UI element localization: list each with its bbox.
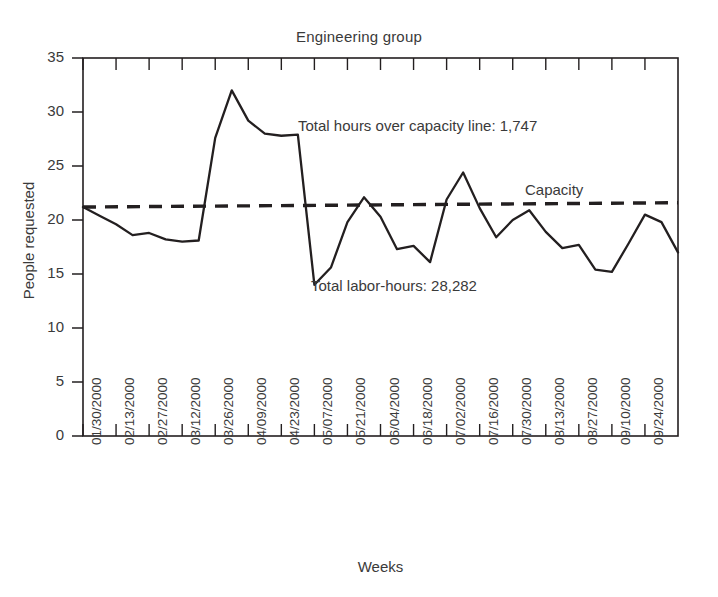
x-tick-label: 05/07/2000 [320, 377, 335, 445]
x-tick-label: 09/10/2000 [618, 377, 633, 445]
y-tick-label: 20 [24, 210, 64, 227]
annotation-hours-over-capacity: Total hours over capacity line: 1,747 [298, 117, 537, 134]
x-tick-label: 07/02/2000 [453, 377, 468, 445]
x-tick-label: 09/24/2000 [651, 377, 666, 445]
x-tick-label: 04/09/2000 [254, 377, 269, 445]
x-tick-label: 08/27/2000 [585, 377, 600, 445]
y-tick-label: 35 [24, 48, 64, 65]
x-tick-label: 02/13/2000 [122, 377, 137, 445]
x-axis-ticks-top [83, 58, 645, 70]
y-tick-label: 25 [24, 156, 64, 173]
y-tick-label: 30 [24, 102, 64, 119]
x-tick-label: 08/13/2000 [552, 377, 567, 445]
chart-figure: Engineering group People requested Weeks… [0, 0, 718, 597]
x-tick-label: 05/21/2000 [353, 377, 368, 445]
y-tick-label: 0 [24, 426, 64, 443]
x-tick-label: 01/30/2000 [89, 377, 104, 445]
capacity-reference-line [83, 203, 678, 207]
plot-area [0, 0, 718, 597]
x-tick-label: 06/04/2000 [387, 377, 402, 445]
x-tick-label: 02/27/2000 [155, 377, 170, 445]
x-tick-label: 06/18/2000 [420, 377, 435, 445]
x-tick-label: 03/26/2000 [221, 377, 236, 445]
y-tick-label: 5 [24, 372, 64, 389]
x-tick-label: 07/16/2000 [486, 377, 501, 445]
y-tick-label: 10 [24, 318, 64, 335]
x-tick-label: 07/30/2000 [519, 377, 534, 445]
annotation-capacity-label: Capacity [525, 181, 583, 198]
y-tick-label: 15 [24, 264, 64, 281]
y-axis-ticks [72, 58, 83, 436]
x-tick-label: 03/12/2000 [188, 377, 203, 445]
annotation-total-labor-hours: Total labor-hours: 28,282 [311, 277, 477, 294]
x-tick-label: 04/23/2000 [287, 377, 302, 445]
